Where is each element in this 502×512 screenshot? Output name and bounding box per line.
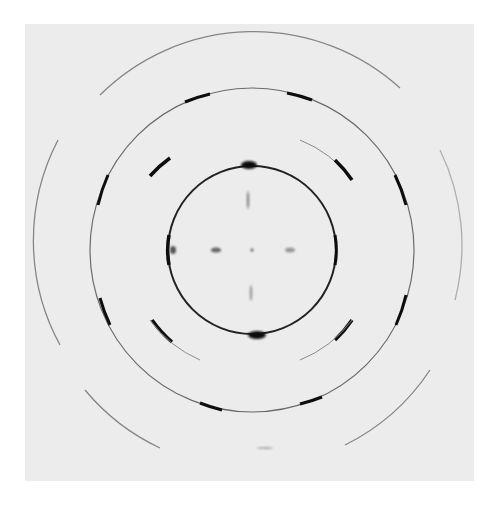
top-meridional-streak bbox=[247, 191, 250, 209]
outer-ring bbox=[33, 32, 462, 448]
bottom-ring-spot bbox=[248, 331, 266, 339]
right-equatorial-spot bbox=[285, 248, 295, 253]
left-ring-spot bbox=[170, 246, 176, 254]
center-spot bbox=[251, 249, 254, 252]
top-ring-spot bbox=[241, 161, 257, 169]
diffraction-pattern bbox=[0, 0, 502, 512]
left-equatorial-spot bbox=[211, 248, 221, 253]
bottom-meridional-streak bbox=[250, 285, 253, 301]
bottom-faint-streak bbox=[257, 447, 273, 449]
